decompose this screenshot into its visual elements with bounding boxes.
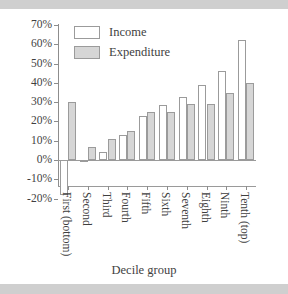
- x-axis-tick: [207, 186, 208, 190]
- y-axis-tick-label: 0%: [8, 154, 52, 166]
- bar-income: [159, 105, 167, 160]
- bar-income: [198, 85, 206, 160]
- bar-expenditure: [68, 102, 76, 160]
- bar-expenditure: [187, 104, 195, 160]
- zero-baseline: [58, 160, 256, 161]
- y-axis-tick: [54, 179, 58, 180]
- bar-income: [218, 71, 226, 160]
- y-axis-tick: [54, 64, 58, 65]
- bar-income: [119, 135, 127, 160]
- x-axis-category-label: Seventh: [179, 192, 191, 229]
- y-axis-tick: [54, 25, 58, 26]
- legend-label-income: Income: [109, 26, 146, 39]
- bar-income: [179, 97, 187, 160]
- y-axis-tick-label: 70%: [8, 19, 52, 31]
- y-axis-tick: [54, 160, 58, 161]
- y-axis-tick: [54, 102, 58, 103]
- x-axis-tick: [246, 186, 247, 190]
- x-axis-category-label: First (bottom): [60, 192, 72, 256]
- bar-income: [139, 116, 147, 160]
- x-axis-title: Decile group: [0, 264, 288, 277]
- bar-income: [99, 152, 107, 160]
- bar-expenditure: [127, 131, 135, 160]
- bar-expenditure: [226, 93, 234, 161]
- y-axis-tick-label: 40%: [8, 77, 52, 89]
- bar-expenditure: [246, 83, 254, 160]
- legend-swatch-income-icon: [74, 26, 100, 39]
- legend-entry-expenditure: Expenditure: [74, 44, 170, 60]
- x-axis-tick: [68, 186, 69, 190]
- x-axis-tick: [88, 186, 89, 190]
- bar-expenditure: [207, 104, 215, 160]
- y-axis-tick: [54, 121, 58, 122]
- bar-expenditure: [167, 112, 175, 160]
- y-axis-tick-label: 60%: [8, 38, 52, 50]
- y-axis-tick-label: -20%: [8, 193, 52, 205]
- x-axis-category-label: Tenth (top): [239, 192, 251, 243]
- y-axis-tick: [54, 141, 58, 142]
- x-axis-tick: [108, 186, 109, 190]
- legend-swatch-expenditure-icon: [74, 46, 100, 59]
- y-axis-tick-label: 30%: [8, 96, 52, 108]
- y-axis-tick-label: -10%: [8, 173, 52, 185]
- bar-income: [80, 160, 88, 162]
- chart-legend: Income Expenditure: [74, 24, 170, 64]
- y-axis-tick-label: 10%: [8, 135, 52, 147]
- x-axis-category-label: Fifth: [140, 192, 152, 214]
- y-axis-tick: [54, 44, 58, 45]
- bar-income: [238, 40, 246, 160]
- bar-expenditure: [108, 139, 116, 160]
- y-axis-tick: [54, 199, 58, 200]
- x-axis-tick: [127, 186, 128, 190]
- bar-expenditure: [88, 147, 96, 161]
- x-axis-category-label: Fourth: [120, 192, 132, 223]
- y-axis-tick: [54, 83, 58, 84]
- chart-figure: 70%60%50%40%30%20%10%0%-10%-20%First (bo…: [0, 0, 288, 294]
- x-axis-tick: [226, 186, 227, 190]
- legend-entry-income: Income: [74, 24, 170, 40]
- y-axis-tick-label: 20%: [8, 115, 52, 127]
- y-axis-tick-label: 50%: [8, 58, 52, 70]
- x-axis-tick: [167, 186, 168, 190]
- x-axis-tick: [147, 186, 148, 190]
- legend-label-expenditure: Expenditure: [109, 46, 170, 59]
- x-axis-category-label: Ninth: [219, 192, 231, 218]
- x-axis-category-label: Sixth: [159, 192, 171, 216]
- bar-expenditure: [147, 112, 155, 160]
- bar-income: [60, 160, 68, 195]
- x-axis-tick: [187, 186, 188, 190]
- x-axis-category-label: Eighth: [199, 192, 211, 223]
- x-axis-category-label: Third: [100, 192, 112, 218]
- x-axis-category-label: Second: [80, 192, 92, 226]
